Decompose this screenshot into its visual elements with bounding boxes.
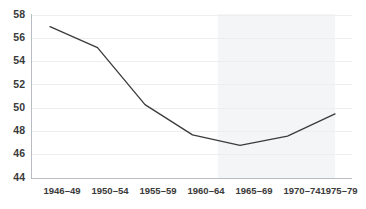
y-tick-label: 52 (13, 78, 25, 90)
y-axis-tick-labels: 58 56 54 52 50 48 46 44 (13, 8, 25, 183)
y-tick-label: 58 (13, 8, 25, 20)
y-tick-label: 56 (13, 31, 25, 43)
y-tick-label: 50 (13, 101, 25, 113)
y-tick-label: 44 (13, 171, 25, 183)
x-tick-label: 1965–69 (236, 185, 273, 196)
y-tick-label: 54 (13, 54, 25, 66)
line-chart: 58 56 54 52 50 48 46 44 1946–49 1950–54 … (0, 0, 366, 209)
x-tick-label: 1955–59 (140, 185, 177, 196)
y-tick-label: 46 (13, 147, 25, 159)
x-axis-tick-labels: 1946–49 1950–54 1955–59 1960–64 1965–69 … (44, 185, 358, 196)
x-tick-label: 1970–74 (284, 185, 322, 196)
x-tick-label: 1960–64 (188, 185, 226, 196)
chart-canvas: 58 56 54 52 50 48 46 44 1946–49 1950–54 … (0, 0, 366, 209)
y-tick-label: 48 (13, 124, 25, 136)
x-tick-label: 1946–49 (44, 185, 81, 196)
x-tick-label: 1950–54 (92, 185, 130, 196)
x-tick-label: 1975–79 (321, 185, 358, 196)
